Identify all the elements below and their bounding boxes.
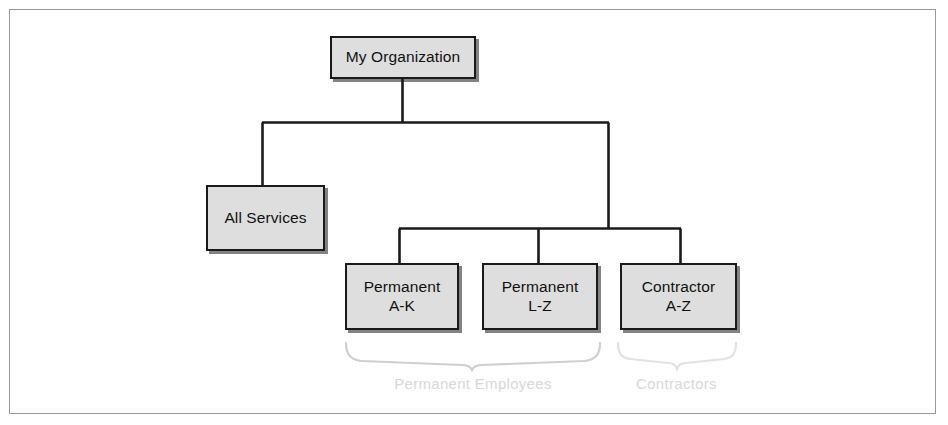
- node-my-organization-label: My Organization: [346, 48, 460, 66]
- node-contractor-a-z[interactable]: Contractor A-Z: [620, 263, 737, 330]
- node-my-organization[interactable]: My Organization: [330, 36, 476, 79]
- node-permanent-a-k-label: Permanent A-K: [364, 278, 441, 315]
- node-permanent-a-k[interactable]: Permanent A-K: [345, 263, 459, 330]
- node-all-services-label: All Services: [224, 209, 306, 227]
- group-label-contractors: Contractors: [617, 375, 736, 392]
- node-all-services[interactable]: All Services: [206, 185, 325, 251]
- figure-canvas: My Organization All Services Permanent A…: [0, 0, 948, 425]
- node-permanent-l-z-label: Permanent L-Z: [502, 278, 579, 315]
- node-contractor-a-z-label: Contractor A-Z: [642, 278, 715, 315]
- node-permanent-l-z[interactable]: Permanent L-Z: [482, 263, 598, 330]
- group-label-permanent-employees: Permanent Employees: [345, 375, 601, 392]
